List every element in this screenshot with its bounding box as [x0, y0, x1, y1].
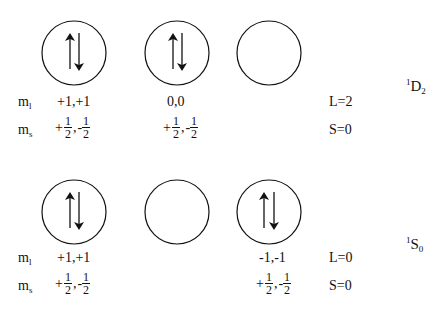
ms-value: + 12 ,- 12	[55, 271, 90, 296]
orbital-ml-0-state1	[145, 21, 209, 85]
term-symbol-1D2: 1D2	[406, 77, 426, 96]
ms-value: + 12 ,- 12	[256, 271, 291, 296]
ms-label: ms	[18, 123, 32, 141]
term-symbol-1S0: 1S0	[406, 235, 423, 254]
orbital-diagram	[0, 0, 445, 312]
total-S: S=0	[329, 123, 352, 137]
total-L: L=0	[329, 251, 352, 265]
ml-label: ml	[18, 251, 31, 269]
ml-value: -1,-1	[259, 251, 286, 265]
ml-value: +1,+1	[57, 95, 90, 109]
total-S: S=0	[329, 279, 352, 293]
ms-value: + 12 ,- 12	[163, 115, 198, 140]
ml-label: ml	[18, 95, 31, 113]
orbital-ml-0-state2	[145, 180, 209, 244]
orbital-ml-plus1-state1	[42, 21, 106, 85]
ms-value: + 12 ,- 12	[55, 115, 90, 140]
ms-label: ms	[18, 279, 32, 297]
orbital-ml-minus1-state2	[237, 180, 301, 244]
orbital-ml-plus1-state2	[42, 180, 106, 244]
ml-value: +1,+1	[57, 251, 90, 265]
orbital-ml-minus1-state1	[237, 21, 301, 85]
total-L: L=2	[329, 95, 352, 109]
ml-value: 0,0	[167, 95, 185, 109]
